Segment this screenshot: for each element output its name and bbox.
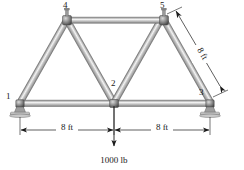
truss-figure: 1 2 3 4 5 8 ft 8 ft 8 ft 1000 lb (0, 0, 244, 170)
joint-5 (160, 8, 169, 25)
member-4-2 (64, 18, 117, 104)
truss-members (17, 17, 214, 106)
dimension-label-left-span: 8 ft (61, 122, 74, 132)
dimension-lines (20, 107, 210, 135)
node-label-3: 3 (199, 87, 204, 97)
dimension-label-right-span: 8 ft (156, 122, 169, 132)
node-label-2: 2 (111, 78, 116, 88)
joint-4 (63, 8, 72, 25)
member-2-3 (112, 100, 212, 106)
truss-drawing: 1 2 3 4 5 8 ft 8 ft 8 ft 1000 lb (0, 0, 244, 170)
node-label-5: 5 (160, 0, 165, 10)
labels: 1 2 3 4 5 8 ft 8 ft 8 ft 1000 lb (6, 0, 210, 165)
member-1-2 (18, 100, 116, 106)
member-1-4 (17, 18, 70, 104)
member-4-5 (65, 17, 166, 23)
node-label-4: 4 (63, 0, 68, 10)
load-label: 1000 lb (100, 155, 128, 165)
member-2-5 (111, 18, 164, 104)
node-label-1: 1 (6, 91, 11, 101)
